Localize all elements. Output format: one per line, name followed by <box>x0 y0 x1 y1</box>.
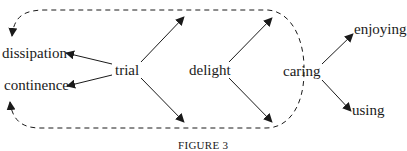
node-enjoying: enjoying <box>354 22 407 37</box>
arrow-trial-to-continence <box>67 75 112 86</box>
node-delight: delight <box>189 63 231 78</box>
arrow-caring-to-enjoying <box>322 34 353 64</box>
arrow-delight-upper-right <box>229 18 272 62</box>
arrow-trial-to-dissipation <box>66 53 112 64</box>
node-continence: continence <box>4 78 69 93</box>
arrow-delight-lower-right <box>229 78 272 122</box>
arrow-trial-lower-right <box>141 78 184 122</box>
node-trial: trial <box>115 63 139 78</box>
figure-caption: FIGURE 3 <box>178 140 228 151</box>
node-using: using <box>352 103 385 118</box>
node-caring: caring <box>283 64 320 79</box>
arrow-caring-to-using <box>322 80 351 111</box>
arrow-trial-upper-right <box>141 17 184 62</box>
node-dissipation: dissipation <box>2 46 67 61</box>
